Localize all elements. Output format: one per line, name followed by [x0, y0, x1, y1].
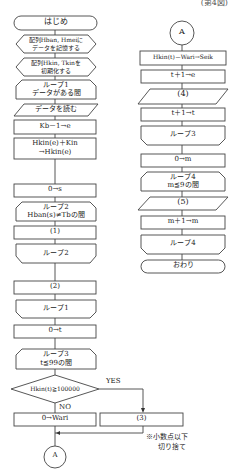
loop4-end-label: ループ4 — [141, 240, 225, 248]
note-line2: 切り捨て — [158, 444, 186, 452]
proc-e-label: t＋1→e — [141, 72, 225, 80]
connector-a-in-label: A — [170, 28, 194, 37]
proc-hkin-line1: Hkin(e)＋Kin — [14, 140, 96, 148]
loop2-start-line2: Hban(s)≠Tbの間 — [16, 212, 96, 220]
arrow-left-icon — [56, 431, 60, 435]
proc-kb-label: Kb－1→e — [14, 123, 96, 131]
yes-path-line — [99, 389, 143, 410]
end-label: おわり — [141, 262, 225, 270]
connector-a-out-label: A — [44, 452, 66, 460]
prep2-line1: 配列Hkin, Tkinを — [16, 60, 96, 67]
note-line1: ※小数点以下 — [146, 434, 188, 442]
prep1-line2: データを記憶する — [16, 45, 96, 52]
proc-hkin-line2: →Hkin(e) — [14, 149, 96, 157]
loop1-start-line2: データがある間 — [16, 90, 96, 98]
proc-m-init-label: 0→m — [141, 156, 225, 164]
proc-t-label: 0→t — [14, 327, 96, 335]
blank3-label: (3) — [100, 415, 183, 423]
prep2-line2: 初期化する — [16, 68, 96, 75]
prep1-line1: 配列Hban, Hmeiに — [16, 37, 96, 44]
proc-seik-label: Hkin(t)－Wari→Seik — [140, 54, 226, 61]
yes-label: YES — [106, 378, 121, 386]
blank4-label: (4) — [141, 90, 225, 99]
no-label: NO — [59, 404, 71, 412]
proc-s-label: 0→s — [14, 186, 96, 194]
loop1-end-label: ループ1 — [16, 305, 96, 313]
merge-line — [55, 426, 143, 433]
blank5-label: (5) — [141, 198, 225, 207]
blank1-label: (1) — [14, 228, 96, 236]
decision-label: Hkin(t)≧100000 — [11, 386, 99, 393]
blank2-label: (2) — [14, 283, 96, 291]
arrow-down-icon — [141, 408, 145, 413]
proc-wari-label: 0→Wari — [14, 415, 96, 423]
proc-t-inc-label: t＋1→t — [141, 110, 225, 118]
loop4-start-line2: m≦9の間 — [141, 182, 225, 190]
loop3-start-line2: t≦99の間 — [16, 360, 96, 368]
loop2-end-label: ループ2 — [16, 250, 96, 258]
proc-m-inc-label: m＋1→m — [141, 218, 225, 226]
read-data-label: データを読む — [16, 106, 96, 114]
loop3-end-label: ループ3 — [141, 131, 225, 139]
loop3-start-line1: ループ3 — [16, 351, 96, 359]
start-label: はじめ — [14, 18, 97, 27]
